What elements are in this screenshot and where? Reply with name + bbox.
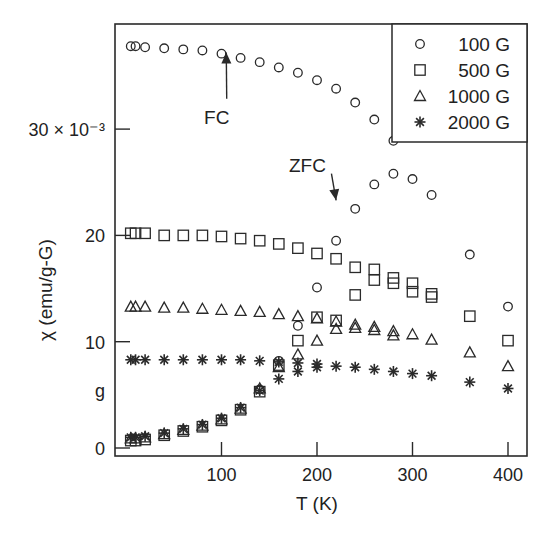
square-marker — [312, 248, 322, 258]
asterisk-marker — [159, 354, 170, 365]
square-marker — [331, 254, 341, 264]
asterisk-marker — [197, 419, 208, 430]
asterisk-marker — [464, 377, 475, 388]
legend: 100 G500 G1000 G2000 G — [392, 24, 527, 142]
x-tick-label: 100 — [206, 465, 236, 485]
square-marker — [426, 289, 436, 299]
asterisk-marker — [216, 354, 227, 365]
circle-marker — [351, 98, 360, 107]
circle-marker — [332, 236, 341, 245]
asterisk-marker — [140, 431, 151, 442]
square-marker — [293, 243, 303, 253]
series-100g-zfc — [255, 169, 512, 393]
asterisk-marker — [273, 356, 284, 367]
square-marker — [140, 228, 150, 238]
square-marker — [235, 233, 245, 243]
asterisk-marker — [388, 366, 399, 377]
asterisk-marker — [254, 355, 265, 366]
series-100g-fc — [126, 42, 397, 145]
y-axis-label: χ (emu/g-G) — [35, 239, 56, 341]
triangle-marker — [178, 302, 189, 312]
circle-marker — [504, 302, 513, 311]
legend-label: 100 G — [458, 34, 510, 55]
annotations: FCZFC — [204, 53, 339, 201]
triangle-marker — [312, 313, 323, 323]
y-tick-label: g — [95, 381, 105, 401]
annotation-zfc: ZFC — [289, 155, 326, 176]
asterisk-marker — [350, 362, 361, 373]
arrow-head-icon — [329, 189, 339, 201]
legend-label: 500 G — [458, 60, 510, 81]
triangle-marker — [140, 301, 151, 311]
square-marker — [350, 290, 360, 300]
square-marker — [274, 239, 284, 249]
triangle-marker — [369, 321, 380, 331]
asterisk-marker — [312, 362, 323, 373]
circle-marker — [466, 250, 475, 259]
asterisk-marker — [254, 385, 265, 396]
circle-marker — [275, 63, 284, 72]
asterisk-marker — [159, 428, 170, 439]
annotation-fc: FC — [204, 107, 229, 128]
asterisk-marker — [178, 423, 189, 434]
asterisk-marker — [407, 368, 418, 379]
asterisk-marker — [216, 413, 227, 424]
asterisk-marker — [235, 402, 246, 413]
triangle-marker — [292, 349, 303, 359]
square-marker — [255, 236, 265, 246]
circle-marker — [179, 45, 188, 54]
triangle-marker — [331, 323, 342, 333]
circle-marker — [313, 283, 322, 292]
square-marker — [369, 264, 379, 274]
circle-marker — [294, 68, 303, 77]
triangle-marker — [407, 329, 418, 339]
triangle-marker — [216, 304, 227, 314]
circle-marker — [255, 58, 264, 67]
square-marker — [159, 230, 169, 240]
square-marker — [369, 275, 379, 285]
square-marker — [350, 262, 360, 272]
triangle-marker — [426, 334, 437, 344]
asterisk-marker — [292, 366, 303, 377]
square-marker — [293, 335, 303, 345]
legend-label: 1000 G — [448, 86, 510, 107]
triangle-marker — [503, 361, 514, 371]
circle-marker — [313, 76, 322, 85]
asterisk-marker — [426, 370, 437, 381]
circle-marker — [236, 54, 245, 63]
series-1000g-fc — [125, 301, 437, 344]
triangle-marker — [292, 311, 303, 321]
triangle-marker — [464, 347, 475, 357]
circle-marker — [332, 84, 341, 93]
series-2000g-fc — [125, 354, 513, 394]
asterisk-marker — [369, 364, 380, 375]
circle-marker — [389, 169, 398, 178]
circle-marker — [198, 46, 207, 55]
asterisk-marker — [235, 354, 246, 365]
circle-marker — [370, 115, 379, 124]
square-marker — [503, 335, 513, 345]
triangle-marker — [350, 319, 361, 329]
circle-marker — [160, 44, 169, 53]
y-tick-label: 0 — [95, 439, 105, 459]
asterisk-marker — [130, 432, 141, 443]
asterisk-marker — [273, 373, 284, 384]
asterisk-marker — [197, 354, 208, 365]
circle-marker — [294, 321, 303, 330]
asterisk-marker — [331, 361, 342, 372]
triangle-marker — [312, 335, 323, 345]
x-tick-label: 300 — [397, 465, 427, 485]
triangle-marker — [197, 303, 208, 313]
asterisk-marker — [130, 354, 141, 365]
triangle-marker — [273, 309, 284, 319]
x-tick-label: 200 — [302, 465, 332, 485]
y-tick-label: 30 × 10⁻³ — [28, 120, 105, 140]
x-axis-label: T (K) — [296, 493, 338, 514]
square-marker — [216, 231, 226, 241]
circle-marker — [408, 175, 417, 184]
series-2000g-zfc — [125, 362, 322, 443]
triangle-marker — [254, 306, 265, 316]
y-tick-label: 10 — [85, 333, 105, 353]
circle-marker — [370, 180, 379, 189]
x-axis: 100200300400 — [206, 442, 523, 485]
